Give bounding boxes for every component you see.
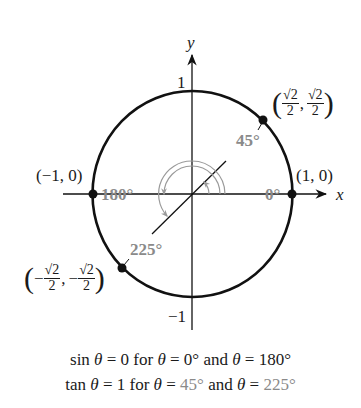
- coord-label-45: (√22,√22): [272, 88, 334, 118]
- point-45: [259, 116, 268, 125]
- caption-tan: tan θ = 1 for θ = 45° and θ = 225°: [0, 375, 361, 395]
- y-fraction: √22: [307, 88, 324, 118]
- close-paren: ): [324, 86, 334, 119]
- angle-label-0: 0°: [265, 186, 280, 203]
- y-axis-label: y: [187, 34, 195, 51]
- coord-label-225: (−√22,−√22): [24, 263, 105, 293]
- y-tick-neg1: −1: [168, 308, 186, 325]
- x-fraction: √22: [44, 263, 61, 293]
- coord-label-1-0: (1, 0): [296, 167, 333, 184]
- y-fraction: √22: [78, 263, 95, 293]
- diagonal-line: [152, 161, 226, 234]
- open-paren: (: [272, 86, 282, 119]
- x-fraction: √22: [282, 88, 299, 118]
- angle-label-45: 45°: [236, 132, 260, 149]
- angle-label-225: 225°: [130, 241, 162, 258]
- arc-225-icon: [159, 161, 192, 216]
- caption-sin: sin θ = 0 for θ = 0° and θ = 180°: [0, 350, 361, 370]
- point-225: [118, 264, 127, 273]
- arc-45-icon: [204, 182, 209, 194]
- unit-circle-diagram: [0, 0, 361, 408]
- angle-label-180: 180°: [101, 186, 133, 203]
- coord-label-neg1-0: (−1, 0): [36, 167, 82, 184]
- y-tick-1: 1: [177, 74, 186, 91]
- x-axis-label: x: [336, 186, 344, 203]
- point-180: [89, 190, 98, 199]
- leader-225: [124, 259, 129, 265]
- point-0: [288, 190, 297, 199]
